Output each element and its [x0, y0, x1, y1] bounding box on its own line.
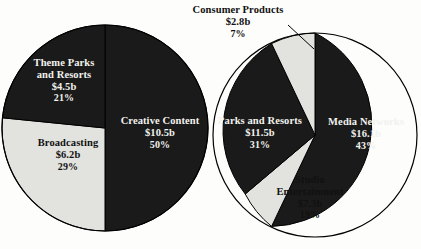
left-pie-chart: [2, 25, 208, 231]
pie-slice-broadcasting[interactable]: [2, 118, 105, 231]
pie-charts-figure: Theme Parks and Resorts $4.5b 21% Broadc…: [0, 0, 421, 249]
pie-slice-theme-parks[interactable]: [2, 25, 105, 128]
pie-slice-creative-content[interactable]: [105, 25, 208, 231]
pie-charts-canvas: [0, 0, 421, 249]
right-pie-chart: [213, 25, 417, 237]
